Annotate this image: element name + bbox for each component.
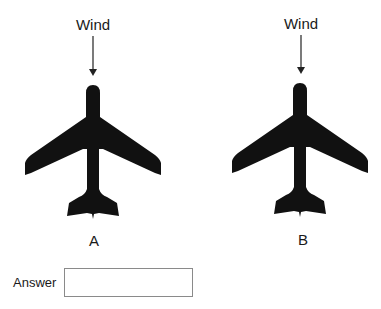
- wind-label-b: Wind: [271, 15, 331, 32]
- airplane-b-icon: [232, 83, 368, 217]
- diagram-canvas: [0, 0, 381, 309]
- wind-arrow-b: [297, 35, 305, 74]
- wind-arrow-a: [89, 36, 97, 76]
- airplane-a-icon: [25, 85, 161, 219]
- plane-label-a: A: [79, 232, 109, 249]
- wind-label-a: Wind: [63, 16, 123, 33]
- answer-input[interactable]: [64, 268, 193, 297]
- plane-label-b: B: [288, 231, 318, 248]
- answer-label: Answer: [13, 275, 56, 290]
